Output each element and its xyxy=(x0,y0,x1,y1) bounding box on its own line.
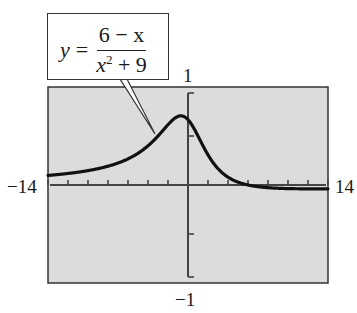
denominator: x2 + 9 xyxy=(96,51,147,78)
xmin-label: −14 xyxy=(7,177,37,196)
ymax-label: 1 xyxy=(183,66,193,85)
fraction: 6 − x x2 + 9 xyxy=(96,22,147,78)
equals-sign: = xyxy=(76,37,88,63)
ymin-label: −1 xyxy=(175,290,195,309)
xmax-label: 14 xyxy=(335,177,354,196)
equation: y = 6 − x x2 + 9 xyxy=(60,22,147,78)
equation-lhs: y xyxy=(60,37,70,63)
equation-callout: y = 6 − x x2 + 9 xyxy=(47,13,169,80)
numerator: 6 − x xyxy=(97,22,146,51)
